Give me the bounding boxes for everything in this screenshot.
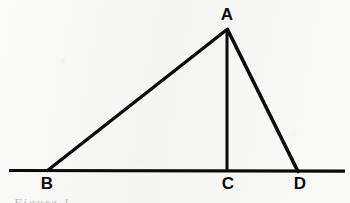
clipped-caption-text: Figure 1: [14, 196, 144, 203]
vertex-label-a: A: [215, 6, 239, 23]
baseline-BD: [9, 171, 345, 172]
segment-AD: [228, 30, 299, 172]
vertex-label-c: C: [216, 175, 240, 192]
segment-AB: [48, 30, 228, 171]
vertex-label-d: D: [288, 175, 312, 192]
diagram-canvas: [0, 0, 350, 203]
vertex-label-b: B: [35, 175, 59, 192]
geometry-figure: A B C D Figure 1: [0, 0, 350, 203]
